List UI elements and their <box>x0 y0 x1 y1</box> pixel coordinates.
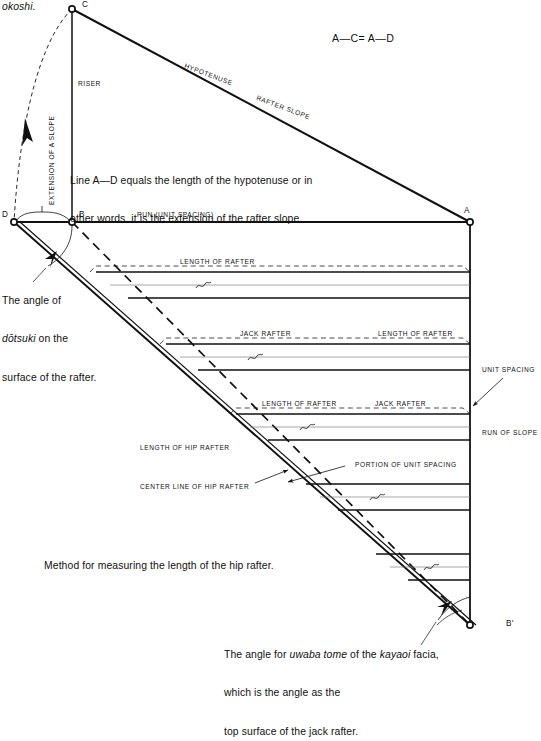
vertex-dot-b-prime <box>467 622 473 628</box>
vertex-label-a: A <box>464 206 470 216</box>
extension-arc <box>14 9 72 222</box>
note-dotsuki: The angle of dōtsuki on the surface of t… <box>2 270 97 410</box>
note-uwaba-term-2: kayaoi <box>380 649 411 660</box>
label-portion-of-unit-spacing: PORTION OF UNIT SPACING <box>355 461 457 469</box>
rafter-group-3-dim-line <box>230 408 470 414</box>
label-extension-of-a-slope: EXTENSION OF A SLOPE <box>48 116 56 205</box>
rafter-group-2-dim-line <box>160 338 470 344</box>
rafter-group-3 <box>230 408 470 440</box>
rafter-group-5 <box>376 554 470 580</box>
d-b-brace <box>16 212 70 221</box>
note-uwaba-tome: The angle for uwaba tome of the kayaoi f… <box>224 624 439 741</box>
note-uwaba-line1-a: The angle for <box>224 649 290 660</box>
label-jack-rafter-2: JACK RAFTER <box>240 330 291 338</box>
label-riser: RISER <box>78 80 101 88</box>
vertex-label-c: C <box>82 0 88 10</box>
rafter-group-1-dim-line <box>90 266 470 272</box>
vertex-dot-d <box>11 219 17 225</box>
running-head: okoshi. <box>2 1 36 14</box>
note-uwaba-term-1: uwaba tome <box>290 649 348 660</box>
note-dotsuki-line1: The angle of <box>2 295 97 308</box>
center-line-hip-rafter-leader <box>255 470 288 483</box>
vertex-label-b-prime: B' <box>506 619 514 629</box>
label-length-of-rafter-1: LENGTH OF RAFTER <box>180 258 255 266</box>
vertex-dot-a <box>467 219 473 225</box>
note-line-ad: Line A—D equals the length of the hypote… <box>70 150 312 252</box>
label-jack-rafter-3: JACK RAFTER <box>375 400 426 408</box>
note-uwaba-line1-b: of the <box>347 649 380 660</box>
dotsuki-angle-arc <box>48 226 72 266</box>
label-length-of-rafter-2: LENGTH OF RAFTER <box>378 330 453 338</box>
label-run-of-slope: RUN OF SLOPE <box>482 429 538 437</box>
unit-spacing-leader <box>473 378 503 406</box>
extension-arc-arrowhead <box>22 118 33 146</box>
rafter-group-4 <box>306 484 470 510</box>
note-uwaba-line3: top surface of the jack rafter. <box>224 726 439 739</box>
note-line-ad-line1: Line A—D equals the length of the hypote… <box>70 175 312 188</box>
note-line-ad-line2: other words. it is the extension of the … <box>70 213 312 226</box>
rafter-group-2 <box>160 338 470 370</box>
label-unit-spacing: UNIT SPACING <box>482 366 535 374</box>
uwaba-tome-angle-arc2 <box>437 610 462 625</box>
label-length-of-rafter-3: LENGTH OF RAFTER <box>262 400 337 408</box>
note-dotsuki-line2: dōtsuki on the <box>2 333 97 346</box>
label-center-line-of-hip-rafter: CENTER LINE OF HIP RAFTER <box>140 483 249 491</box>
vertex-label-d: D <box>2 210 8 220</box>
note-dotsuki-line3: surface of the rafter. <box>2 372 97 385</box>
vertex-dot-c <box>69 6 75 12</box>
formula-a-c-equals-a-d: A—C= A—D <box>332 32 394 45</box>
note-dotsuki-line2-rest: on the <box>36 333 68 344</box>
note-dotsuki-term: dōtsuki <box>2 333 36 344</box>
rafter-group-1 <box>90 266 470 298</box>
note-uwaba-line2: which is the angle as the <box>224 687 439 700</box>
note-uwaba-line1-c: facia, <box>410 649 438 660</box>
label-length-of-hip-rafter: LENGTH OF HIP RAFTER <box>140 444 230 452</box>
note-method: Method for measuring the length of the h… <box>44 560 274 573</box>
note-uwaba-line1: The angle for uwaba tome of the kayaoi f… <box>224 649 439 662</box>
